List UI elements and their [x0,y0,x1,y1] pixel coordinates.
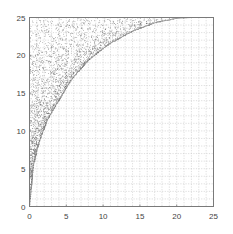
x-tick-label: 5 [64,212,69,221]
x-tick-label: 15 [135,212,144,221]
y-tick-label: 20 [17,51,26,60]
x-tick-label: 0 [27,212,32,221]
chart: 0510152025 0510152025 [0,0,233,234]
y-tick-label: 5 [21,165,26,174]
plot-frame [30,18,214,207]
y-tick-label: 10 [17,127,26,136]
grid-lines [30,18,214,207]
y-tick-label: 0 [21,203,26,212]
x-tick-label: 25 [209,212,218,221]
x-tick-label: 20 [172,212,181,221]
y-tick-label: 15 [17,89,26,98]
x-tick-label: 10 [99,212,108,221]
y-tick-label: 25 [17,14,26,23]
